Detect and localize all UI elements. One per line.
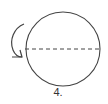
rotation-arrow-icon — [12, 24, 24, 57]
figure-label: 4. — [48, 86, 68, 98]
